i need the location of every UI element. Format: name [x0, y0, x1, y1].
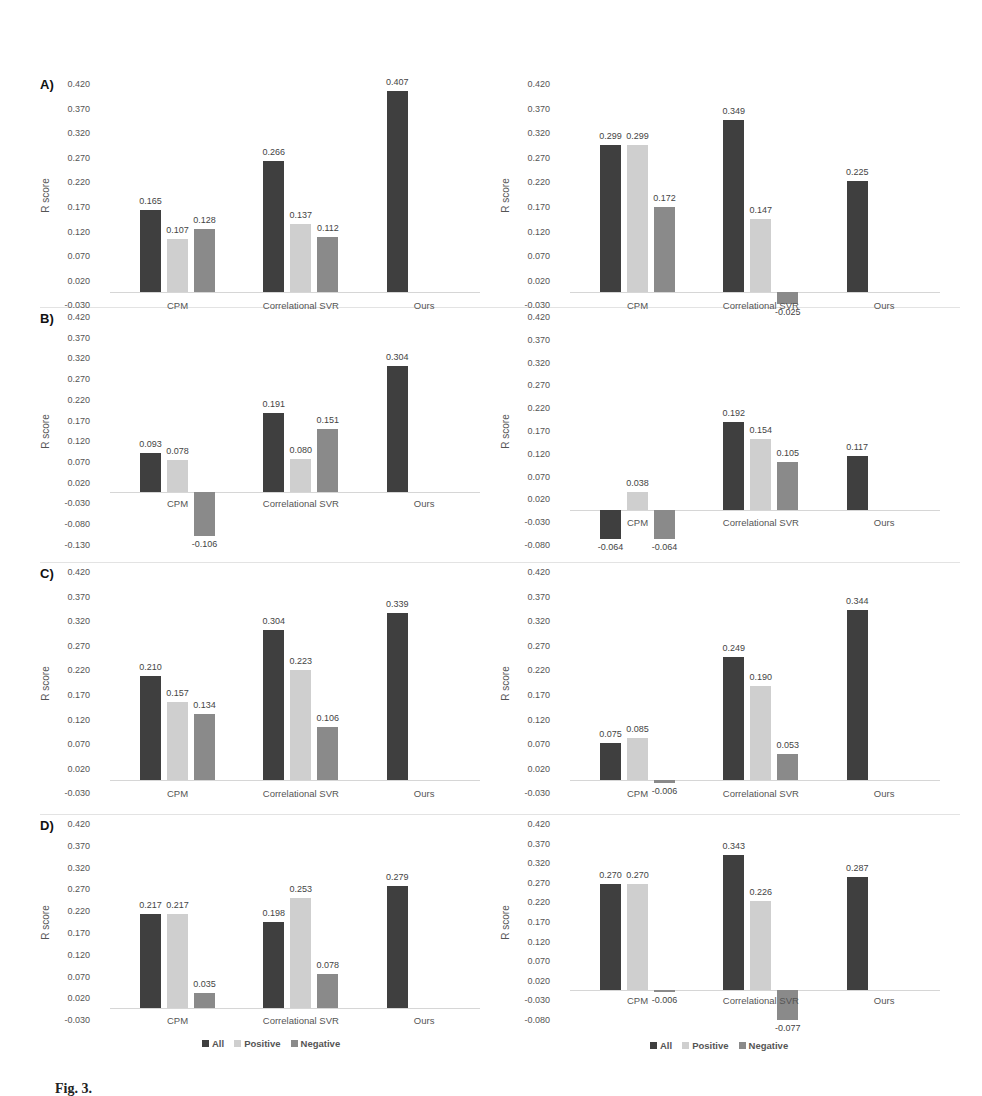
bar-value-label: 0.266 [249, 147, 299, 157]
zero-axis-line [570, 780, 940, 781]
bar-all [140, 210, 161, 291]
legend-label: All [212, 1038, 224, 1049]
bar-negative [654, 780, 675, 783]
panel-separator [40, 562, 960, 563]
bar-all [140, 914, 161, 1009]
y-tick-label: 0.020 [510, 764, 550, 774]
y-tick-label: 0.270 [510, 153, 550, 163]
y-tick-label: 0.420 [50, 79, 90, 89]
y-tick-label: 0.320 [50, 616, 90, 626]
y-tick-label: 0.070 [50, 457, 90, 467]
bar-value-label: 0.154 [736, 425, 786, 435]
bar-all [600, 884, 621, 990]
bar-value-label: 0.172 [640, 193, 690, 203]
y-tick-label: 0.320 [510, 616, 550, 626]
bar-positive [750, 219, 771, 291]
x-category-label: CPM [578, 517, 698, 528]
bar-value-label: 0.344 [832, 596, 882, 606]
bar-value-label: 0.085 [613, 724, 663, 734]
y-tick-label: 0.070 [50, 739, 90, 749]
y-tick-label: 0.220 [50, 665, 90, 675]
y-tick-label: 0.420 [510, 312, 550, 322]
y-tick-label: 0.170 [510, 917, 550, 927]
y-tick-label: 0.220 [510, 897, 550, 907]
y-tick-label: -0.030 [50, 1015, 90, 1025]
bar-value-label: 0.407 [372, 77, 422, 87]
y-tick-label: -0.130 [50, 540, 90, 550]
zero-axis-line [570, 510, 940, 511]
x-category-label: CPM [118, 788, 238, 799]
y-tick-label: 0.370 [50, 592, 90, 602]
x-category-label: Correlational SVR [701, 788, 821, 799]
bar-negative [777, 754, 798, 780]
y-tick-label: 0.370 [50, 333, 90, 343]
y-tick-label: 0.070 [510, 956, 550, 966]
bar-value-label: -0.077 [763, 1023, 813, 1033]
bar-value-label: 0.035 [180, 979, 230, 989]
bar-positive [167, 239, 188, 292]
y-tick-label: 0.370 [510, 104, 550, 114]
legend-swatch-icon [291, 1040, 298, 1047]
y-tick-label: 0.070 [510, 472, 550, 482]
bar-value-label: -0.106 [180, 539, 230, 549]
legend-swatch-icon [650, 1042, 657, 1049]
y-axis-label: R score [40, 666, 51, 700]
y-tick-label: -0.080 [50, 519, 90, 529]
bar-value-label: 0.287 [832, 863, 882, 873]
y-tick-label: 0.420 [510, 819, 550, 829]
zero-axis-line [110, 780, 480, 781]
x-category-label: CPM [578, 300, 698, 311]
legend-swatch-icon [234, 1040, 241, 1047]
bar-value-label: 0.279 [372, 872, 422, 882]
bar-value-label: 0.270 [613, 870, 663, 880]
bar-all [263, 922, 284, 1008]
bar-all [600, 145, 621, 292]
y-tick-label: 0.370 [50, 841, 90, 851]
y-tick-label: -0.030 [510, 517, 550, 527]
y-tick-label: 0.320 [50, 353, 90, 363]
y-tick-label: 0.270 [510, 878, 550, 888]
bar-all [387, 91, 408, 291]
bar-value-label: 0.253 [276, 884, 326, 894]
y-axis-label: R score [40, 178, 51, 212]
bar-value-label: 0.157 [153, 688, 203, 698]
legend-swatch-icon [202, 1040, 209, 1047]
y-tick-label: 0.220 [510, 665, 550, 675]
y-tick-label: 0.120 [510, 937, 550, 947]
x-category-label: Correlational SVR [241, 1015, 361, 1026]
y-tick-label: -0.080 [510, 540, 550, 550]
legend-item-all: All [650, 1040, 672, 1051]
y-tick-label: 0.020 [510, 276, 550, 286]
y-tick-label: 0.020 [50, 478, 90, 488]
y-tick-label: 0.420 [50, 819, 90, 829]
bar-all [387, 366, 408, 492]
y-tick-label: 0.320 [50, 863, 90, 873]
bar-value-label: 0.191 [249, 399, 299, 409]
legend-label: Negative [301, 1038, 341, 1049]
chart-legend: AllPositiveNegative [202, 1038, 340, 1049]
y-tick-label: 0.420 [50, 567, 90, 577]
bar-positive [627, 884, 648, 990]
legend-item-negative: Negative [291, 1038, 341, 1049]
y-tick-label: 0.170 [50, 928, 90, 938]
y-tick-label: 0.170 [50, 202, 90, 212]
zero-axis-line [110, 1008, 480, 1009]
legend-swatch-icon [682, 1042, 689, 1049]
bar-positive [750, 901, 771, 990]
bar-value-label: 0.299 [613, 131, 663, 141]
legend-item-all: All [202, 1038, 224, 1049]
bar-positive [750, 686, 771, 779]
bar-value-label: 0.078 [303, 960, 353, 970]
legend-item-positive: Positive [234, 1038, 280, 1049]
y-tick-label: 0.070 [510, 251, 550, 261]
bar-value-label: 0.223 [276, 656, 326, 666]
x-category-label: Correlational SVR [701, 517, 821, 528]
legend-label: Positive [244, 1038, 280, 1049]
y-tick-label: 0.170 [510, 202, 550, 212]
bar-value-label: -0.064 [586, 542, 636, 552]
y-tick-label: 0.270 [510, 380, 550, 390]
y-tick-label: 0.120 [510, 715, 550, 725]
y-tick-label: 0.170 [50, 690, 90, 700]
y-tick-label: -0.030 [50, 788, 90, 798]
x-category-label: CPM [118, 1015, 238, 1026]
